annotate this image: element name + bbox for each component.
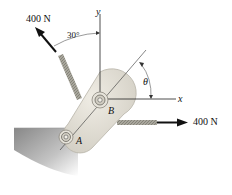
force-arrow-upper-left [35, 27, 56, 52]
force-arrow-right [157, 119, 188, 127]
axis-label-y: y [96, 7, 100, 17]
diagram-svg [0, 0, 232, 195]
axis-label-x: x [178, 94, 182, 104]
pin-B [92, 92, 108, 108]
rope-upper-left [58, 54, 82, 100]
angle-label-30: 30° [67, 31, 80, 40]
point-label-B: B [108, 106, 114, 116]
angle-label-theta: θ [143, 77, 148, 87]
diagram-canvas: 400 N 30° y x θ B A 400 N [0, 0, 232, 195]
pin-A [59, 130, 73, 144]
point-label-A: A [76, 136, 82, 146]
force-label-right: 400 N [193, 117, 218, 127]
rope-right [117, 120, 157, 125]
force-label-upper-left: 400 N [26, 14, 51, 24]
